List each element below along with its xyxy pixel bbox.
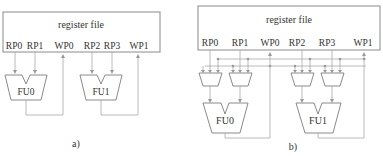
port-rp2-a: RP2 [84,41,101,51]
arrow-icon [136,54,140,58]
arrow-icon [300,99,304,103]
arrow-icon [33,70,37,74]
junction-dot [324,65,327,68]
junction-dot [232,65,235,68]
junction-dot [294,65,297,68]
junction-dot [309,58,312,61]
port-rp3-a: RP3 [104,41,121,51]
arrow-icon [90,70,94,74]
fu0-label-a: FU0 [18,87,35,97]
arrow-icon [110,70,114,74]
port-wp0-b: WP0 [261,38,280,48]
diagram-canvas: register file RP0 RP1 WP0 RP2 RP3 WP1 FU… [0,0,383,156]
port-rp2-b: RP2 [289,38,306,48]
port-wp1-b: WP1 [354,38,373,48]
mux-fu0-b [229,73,252,86]
mux-fu1-b [321,73,344,86]
mux-fu0-a [199,73,222,86]
fu1-label-b: FU1 [309,115,327,126]
port-wp1-a: WP1 [130,41,149,51]
arrow-icon [238,99,242,103]
arrow-icon [208,99,212,103]
junction-dot [217,58,220,61]
junction-dot [247,58,250,61]
arrow-icon [330,99,334,103]
junction-dot [339,58,342,61]
panel-a: register file RP0 RP1 WP0 RP2 RP3 WP1 FU… [3,12,160,150]
port-rp1-b: RP1 [232,38,249,48]
fu0-label-b: FU0 [216,115,234,126]
register-file-title-a: register file [58,19,104,30]
register-file-title-b: register file [266,14,312,25]
port-rp1-a: RP1 [27,41,44,51]
mux-fu1-a [291,73,314,86]
port-rp3-b: RP3 [319,38,336,48]
fu1-label-a: FU1 [93,87,110,97]
arrow-icon [268,52,272,56]
port-rp0-b: RP0 [202,38,219,48]
port-rp0-a: RP0 [6,41,23,51]
panel-b: register file RP0 RP1 WP0 RP2 RP3 WP1 [198,6,380,153]
caption-a: a) [72,138,80,150]
port-wp0-a: WP0 [55,41,74,51]
arrow-icon [362,52,366,56]
arrow-icon [13,70,17,74]
arrow-icon [61,54,65,58]
caption-b: b) [289,141,297,153]
